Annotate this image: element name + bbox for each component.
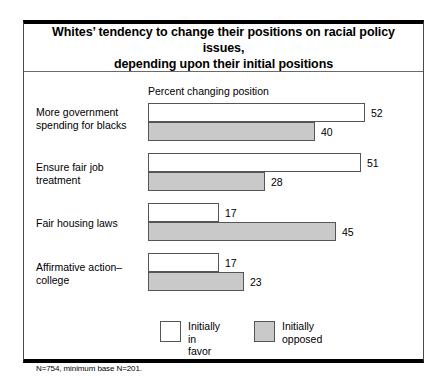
bars-wrap: 17 23 bbox=[148, 252, 423, 294]
group-label-line-2: treatment bbox=[36, 174, 80, 186]
figure-footnote: N=754, minimum base N=201. bbox=[36, 364, 142, 374]
bar-favor bbox=[148, 203, 219, 222]
bar-favor bbox=[148, 153, 361, 172]
group-label: Affirmative action– college bbox=[36, 261, 146, 286]
group-label-line-1: Fair housing laws bbox=[36, 217, 118, 229]
bar-group: Fair housing laws 17 45 bbox=[24, 202, 423, 244]
legend-swatch-favor-icon bbox=[160, 321, 181, 342]
legend-label-favor: Initially in favor bbox=[188, 320, 220, 358]
bar-group: Ensure fair job treatment 51 28 bbox=[24, 152, 423, 194]
group-label-line-2: spending for blacks bbox=[36, 119, 126, 131]
bar-value-opposed: 23 bbox=[250, 276, 262, 288]
bar-group: Affirmative action– college 17 23 bbox=[24, 252, 423, 294]
group-label: Fair housing laws bbox=[36, 217, 146, 230]
bar-value-favor: 17 bbox=[225, 207, 237, 219]
bar-group: More government spending for blacks 52 4… bbox=[24, 102, 423, 144]
bar-value-opposed: 28 bbox=[271, 176, 283, 188]
bar-value-favor: 52 bbox=[371, 107, 383, 119]
figure-frame: Whites’ tendency to change their positio… bbox=[23, 20, 424, 363]
bar-value-favor: 17 bbox=[225, 257, 237, 269]
bar-opposed bbox=[148, 122, 315, 141]
title-text: Whites’ tendency to change their positio… bbox=[24, 24, 423, 72]
group-label-line-1: Affirmative action– bbox=[36, 261, 122, 273]
legend-label-opposed: Initially opposed bbox=[282, 320, 322, 345]
bar-value-favor: 51 bbox=[367, 157, 379, 169]
bar-opposed bbox=[148, 172, 265, 191]
bars-wrap: 52 40 bbox=[148, 102, 423, 144]
bar-favor bbox=[148, 253, 219, 272]
bar-opposed bbox=[148, 222, 336, 241]
axis-caption: Percent changing position bbox=[148, 85, 269, 97]
group-label-line-1: More government bbox=[36, 106, 118, 118]
bars-wrap: 51 28 bbox=[148, 152, 423, 194]
group-label: Ensure fair job treatment bbox=[36, 161, 146, 186]
bar-value-opposed: 45 bbox=[342, 226, 354, 238]
bars-wrap: 17 45 bbox=[148, 202, 423, 244]
legend-swatch-opposed-icon bbox=[254, 321, 275, 342]
title-line-1: Whites’ tendency to change their positio… bbox=[52, 25, 395, 55]
bar-value-opposed: 40 bbox=[321, 126, 333, 138]
plot-area: Percent changing position More governmen… bbox=[24, 72, 423, 359]
bar-opposed bbox=[148, 272, 244, 291]
bar-favor bbox=[148, 103, 365, 122]
legend-item-initially-opposed: Initially opposed bbox=[254, 320, 322, 345]
group-label: More government spending for blacks bbox=[36, 106, 146, 131]
legend-item-initially-in-favor: Initially in favor bbox=[160, 320, 220, 358]
figure-title: Whites’ tendency to change their positio… bbox=[24, 24, 423, 72]
title-line-2: depending upon their initial positions bbox=[114, 57, 333, 71]
group-label-line-1: Ensure fair job bbox=[36, 161, 104, 173]
group-label-line-2: college bbox=[36, 274, 69, 286]
